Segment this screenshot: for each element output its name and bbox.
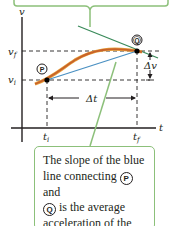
point-q-symbol: Q <box>43 203 56 216</box>
v-axis-label: v <box>19 6 25 17</box>
caption-text: and <box>43 185 60 199</box>
caption-text: is the average <box>56 200 125 214</box>
vf-label: vf <box>8 46 18 59</box>
delta-t-arrow: Δt <box>48 93 136 104</box>
point-p-dot <box>44 77 49 82</box>
t-axis-label: t <box>159 122 164 133</box>
caption-line-2: line connecting P and <box>43 169 149 201</box>
svg-text:Δv: Δv <box>143 60 157 71</box>
caption-line-3: Q is the average <box>43 200 149 216</box>
callout-pointer-line <box>90 62 116 146</box>
svg-text:Q: Q <box>134 37 139 45</box>
svg-text:Δt: Δt <box>85 93 98 104</box>
caption-line-4: acceleration of the car <box>43 216 149 226</box>
caption-callout: The slope of the blue line connecting P … <box>34 146 155 226</box>
tf-label: tf <box>133 131 141 144</box>
vi-label: vi <box>8 74 16 87</box>
point-p-label: P <box>37 64 47 74</box>
svg-text:P: P <box>40 66 45 73</box>
top-callout-box <box>14 0 168 27</box>
secant-line <box>47 51 137 80</box>
point-p-symbol: P <box>120 172 133 185</box>
ti-label: ti <box>43 131 49 144</box>
point-q-dot <box>134 48 139 53</box>
caption-line-1: The slope of the blue <box>43 153 149 169</box>
point-q-label: Q <box>132 35 142 45</box>
caption-text: line connecting <box>43 169 120 183</box>
